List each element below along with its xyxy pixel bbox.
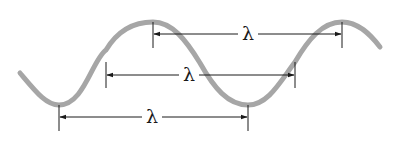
lambda-label-middle: λ	[183, 63, 195, 85]
lambda-label-top: λ	[242, 22, 254, 44]
wavelength-diagram: λ λ λ	[0, 0, 394, 141]
lambda-label-bottom: λ	[146, 105, 158, 127]
